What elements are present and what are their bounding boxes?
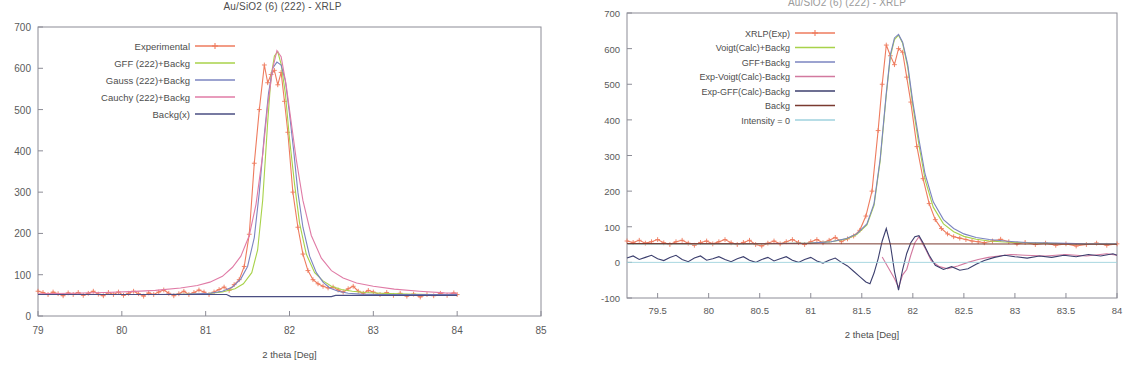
x-tick-label: 83 [1010, 305, 1021, 316]
x-tick-label: 81 [200, 325, 212, 336]
x-tick-label: 85 [535, 325, 547, 336]
y-tick-label: 600 [14, 63, 31, 74]
y-tick-label: 600 [604, 44, 620, 55]
x-tick-label: 82.5 [955, 305, 974, 316]
x-tick-label: 80 [703, 305, 714, 316]
x-tick-label: 79 [32, 325, 44, 336]
chart-panel-left: Au/SiO2 (6) (222) - XRLP 798081828384850… [0, 0, 565, 373]
x-tick-label: 83.5 [1057, 305, 1076, 316]
series-line [38, 52, 457, 295]
x-axis-label: 2 theta [Deg] [845, 329, 899, 340]
legend-marker [812, 30, 818, 36]
x-tick-label: 81 [805, 305, 816, 316]
x-tick-label: 82 [284, 325, 296, 336]
series-line [627, 243, 1117, 244]
x-tick-label: 79.5 [648, 305, 667, 316]
legend-label: Intensity = 0 [741, 116, 790, 126]
y-tick-label: -100 [601, 293, 620, 304]
legend-label: Backg(x) [153, 109, 190, 120]
y-tick-label: 300 [604, 151, 620, 162]
y-tick-label: 400 [604, 115, 620, 126]
legend-label: XRLP(Exp) [745, 29, 790, 39]
chart-panel-right: Au/SiO2 (6) (222) - XRLP 79.58080.58181.… [565, 0, 1129, 373]
y-tick-label: 200 [14, 228, 31, 239]
legend-label: Gauss (222)+Backg [106, 75, 190, 86]
x-tick-label: 84 [1112, 305, 1123, 316]
x-tick-label: 83 [368, 325, 380, 336]
legend-label: GFF (222)+Backg [114, 58, 190, 69]
legend-label: GFF+Backg [742, 58, 790, 68]
legend-label: Cauchy (222)+Backg [101, 92, 190, 103]
x-tick-label: 81.5 [853, 305, 872, 316]
y-tick-label: 700 [14, 22, 31, 33]
legend: XRLP(Exp)Voigt(Calc)+BackgGFF+BackgExp-V… [699, 29, 835, 126]
x-tick-label: 84 [452, 325, 464, 336]
x-axis-label: 2 theta [Deg] [262, 349, 316, 360]
screenshot-root: Au/SiO2 (6) (222) - XRLP 798081828384850… [0, 0, 1129, 373]
series-line [38, 295, 457, 297]
legend-label: Experimental [135, 41, 190, 52]
y-tick-label: 500 [604, 79, 620, 90]
legend: ExperimentalGFF (222)+BackgGauss (222)+B… [101, 41, 235, 120]
y-tick-label: 100 [604, 222, 620, 233]
y-tick-label: 0 [615, 257, 620, 268]
legend-label: Voigt(Calc)+Backg [716, 43, 790, 53]
legend-label: Exp-GFF(Calc)-Backg [701, 87, 790, 97]
legend-label: Backg [765, 101, 790, 111]
legend-marker [212, 43, 218, 49]
y-tick-label: 400 [14, 146, 31, 157]
y-tick-label: 700 [604, 8, 620, 19]
plot-left: 7980818283848501002003004005006007002 th… [0, 0, 565, 373]
y-tick-label: 100 [14, 270, 31, 281]
plot-frame [38, 27, 541, 316]
series-markers [36, 63, 460, 300]
y-tick-label: 200 [604, 186, 620, 197]
series-line [627, 229, 1117, 291]
x-tick-label: 80 [116, 325, 128, 336]
legend-label: Exp-Voigt(Calc)-Backg [699, 72, 790, 82]
x-tick-label: 82 [908, 305, 919, 316]
y-tick-label: 300 [14, 187, 31, 198]
plot-frame [627, 13, 1117, 298]
y-tick-label: 500 [14, 105, 31, 116]
series-line [38, 51, 457, 294]
plot-right: 79.58080.58181.58282.58383.584-100010020… [565, 0, 1129, 373]
series-line [627, 35, 1117, 244]
x-tick-label: 80.5 [750, 305, 769, 316]
y-tick-label: 0 [25, 311, 31, 322]
